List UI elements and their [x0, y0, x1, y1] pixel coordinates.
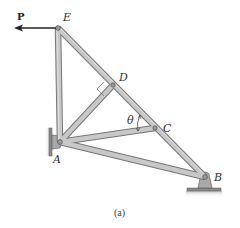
truss-diagram: P E D C A B θ (a) [0, 0, 240, 228]
joint-label-c: C [163, 122, 172, 135]
pin-e [56, 26, 61, 31]
figure-caption: (a) [114, 207, 125, 219]
load-label: P [17, 11, 25, 22]
pin-a [58, 140, 63, 145]
angle-label-theta: θ [127, 114, 134, 127]
pin-d [111, 83, 115, 87]
truss-members [57, 27, 206, 177]
pin-c [153, 126, 157, 130]
pin-b [203, 175, 208, 180]
joint-label-b: B [213, 171, 222, 184]
joint-label-d: D [118, 71, 128, 84]
load-arrow-p [14, 25, 56, 32]
joint-label-a: A [52, 153, 61, 166]
joint-label-e: E [62, 11, 71, 24]
